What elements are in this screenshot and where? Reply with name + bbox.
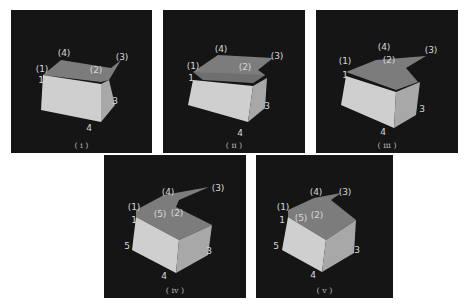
label-n4: 4 [86, 123, 92, 133]
label-n1: 1 [342, 70, 348, 80]
panel-iv: (4) (3) (1) (5) (2) 1 5 3 4 ( iv ) [104, 155, 246, 298]
label-n1: 1 [38, 75, 44, 85]
label-n4: 4 [310, 270, 316, 280]
label-p3: (3) [339, 187, 352, 197]
label-p2: (2) [90, 65, 103, 75]
panel-caption: ( iv ) [166, 286, 184, 295]
label-p5: (5) [295, 213, 308, 223]
box-diagram-ii [163, 10, 305, 153]
label-p1: (1) [277, 202, 290, 212]
label-p4: (4) [162, 187, 175, 197]
panel-caption: ( i ) [75, 141, 89, 150]
label-p5: (5) [154, 209, 167, 219]
label-p4: (4) [378, 42, 391, 52]
label-n4: 4 [161, 271, 167, 281]
box-diagram-iii [316, 10, 458, 153]
panel-v: (4) (3) (1) (5) (2) 1 5 3 4 ( v ) [256, 155, 393, 298]
box-diagram-v [256, 155, 393, 298]
label-p1: (1) [36, 64, 49, 74]
label-p4: (4) [215, 44, 228, 54]
label-p3: (3) [116, 52, 129, 62]
label-n1: 1 [279, 215, 285, 225]
label-n3: 3 [419, 104, 425, 114]
label-p3: (3) [271, 51, 284, 61]
label-p2: (2) [383, 55, 396, 65]
label-n1: 1 [131, 215, 137, 225]
label-p2: (2) [311, 210, 324, 220]
label-p4: (4) [310, 187, 323, 197]
label-p1: (1) [128, 202, 141, 212]
label-n3: 3 [264, 101, 270, 111]
label-p3: (3) [425, 45, 438, 55]
label-p1: (1) [339, 56, 352, 66]
label-p2: (2) [171, 208, 184, 218]
box-diagram-i [11, 10, 152, 153]
label-n5: 5 [124, 241, 130, 251]
label-n3: 3 [206, 246, 212, 256]
label-n4: 4 [237, 128, 243, 138]
label-n4: 4 [380, 127, 386, 137]
panel-iii: (4) (3) (1) (2) 1 3 4 ( iii ) [316, 10, 458, 153]
label-p3: (3) [212, 183, 225, 193]
box-diagram-iv [104, 155, 246, 298]
label-n1: 1 [188, 73, 194, 83]
panel-i: (4) (3) (1) (2) 1 3 4 ( i ) [11, 10, 152, 153]
label-p2: (2) [239, 62, 252, 72]
label-n3: 3 [112, 96, 118, 106]
panel-caption: ( iii ) [377, 141, 396, 150]
panel-caption: ( v ) [317, 286, 333, 295]
label-n3: 3 [354, 245, 360, 255]
panel-caption: ( ii ) [226, 141, 242, 150]
label-n5: 5 [273, 241, 279, 251]
label-p4: (4) [58, 48, 71, 58]
panel-ii: (4) (3) (1) (2) 1 3 4 ( ii ) [163, 10, 305, 153]
label-p1: (1) [187, 61, 200, 71]
